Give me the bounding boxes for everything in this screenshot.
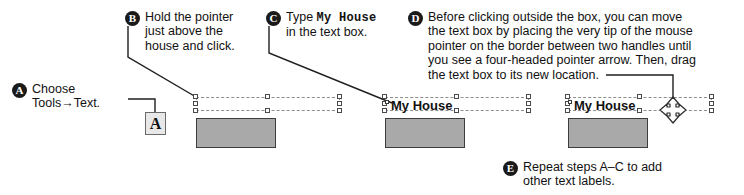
callout-c-text: Type My House in the text box.: [286, 10, 377, 40]
handle-s[interactable]: [265, 108, 270, 113]
handle-ne[interactable]: [337, 94, 342, 99]
callout-c-lead: Type: [286, 10, 317, 24]
callout-a-bullet: A: [12, 83, 27, 98]
handle-n[interactable]: [454, 94, 459, 99]
house-shape-2[interactable]: [385, 118, 465, 148]
callout-e: E Repeat steps A–C to add other text lab…: [503, 160, 703, 189]
text-box-label-3[interactable]: My House: [574, 99, 635, 112]
callout-c: C Type My House in the text box.: [266, 10, 406, 40]
house-shape-3[interactable]: [568, 118, 648, 148]
handle-ne[interactable]: [709, 94, 714, 99]
handle-sw[interactable]: [382, 108, 387, 113]
handle-nw[interactable]: [565, 94, 570, 99]
handle-se[interactable]: [526, 108, 531, 113]
callout-b: B Hold the pointer just above the house …: [125, 10, 260, 53]
callout-c-mono-text: My House: [317, 11, 377, 25]
handle-sw[interactable]: [193, 108, 198, 113]
handle-s[interactable]: [454, 108, 459, 113]
callout-e-bullet: E: [503, 161, 518, 176]
handle-n[interactable]: [265, 94, 270, 99]
text-caret-icon: [568, 100, 572, 104]
text-box-label-2[interactable]: My House: [391, 99, 452, 112]
callout-d-text: Before clicking outside the box, you can…: [428, 10, 696, 82]
text-caret-icon: [385, 100, 389, 104]
callout-b-bullet: B: [125, 11, 140, 26]
callout-d-bullet: D: [408, 11, 423, 26]
handle-w[interactable]: [193, 101, 198, 106]
text-tool-icon[interactable]: A: [145, 112, 166, 135]
house-shape-1[interactable]: [196, 118, 276, 148]
handle-n[interactable]: [637, 94, 642, 99]
callout-c-bullet: C: [266, 11, 281, 26]
handle-se[interactable]: [337, 108, 342, 113]
callout-d: D Before clicking outside the box, you c…: [408, 10, 740, 82]
callout-a: A Choose Tools→Text.: [12, 82, 137, 111]
callout-c-tail: in the text box.: [286, 25, 367, 39]
callout-e-text: Repeat steps A–C to add other text label…: [523, 160, 662, 189]
handle-e[interactable]: [337, 101, 342, 106]
handle-e[interactable]: [526, 101, 531, 106]
handle-sw[interactable]: [565, 108, 570, 113]
handle-se[interactable]: [709, 108, 714, 113]
handle-s[interactable]: [637, 108, 642, 113]
callout-b-text: Hold the pointer just above the house an…: [145, 10, 235, 53]
figure-canvas: A Choose Tools→Text. B Hold the pointer …: [0, 0, 744, 195]
handle-ne[interactable]: [526, 94, 531, 99]
callout-a-text: Choose Tools→Text.: [32, 82, 100, 111]
handle-e[interactable]: [709, 101, 714, 106]
handle-nw[interactable]: [193, 94, 198, 99]
handle-nw[interactable]: [382, 94, 387, 99]
